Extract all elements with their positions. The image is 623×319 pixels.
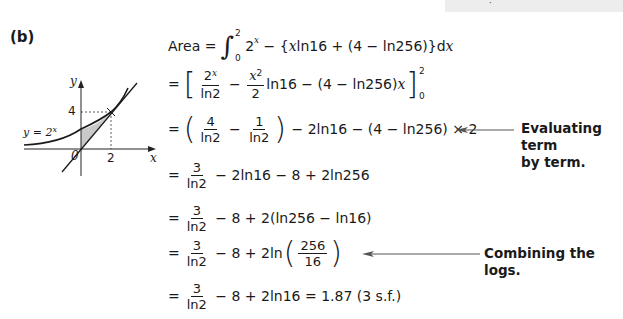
curve-label: y = 2x — [23, 126, 57, 139]
y-axis-label: y — [70, 74, 77, 88]
fraction: 3ln2 — [185, 238, 209, 269]
fraction: 1ln2 — [247, 114, 271, 145]
fraction: 2xln2 — [198, 68, 222, 101]
left-arrow-icon — [362, 249, 480, 259]
graph: y 4 0 2 x y = 2x — [0, 60, 170, 184]
equation-line-7: = 3ln2 − 8 + 2ln16 = 1.87 (3 s.f.) — [168, 276, 401, 316]
equation-line-5: = 3ln2 − 8 + 2(ln256 − ln16) — [168, 198, 372, 238]
equation-line-3: = ( 4ln2 − 1ln2 ) − 2ln16 − (4 − ln256) … — [168, 109, 477, 149]
origin-label: 0 — [71, 149, 79, 163]
part-label: (b) — [10, 28, 34, 46]
graph-svg — [0, 60, 170, 180]
integral-sign: ∫ — [220, 32, 234, 60]
fraction: 3ln2 — [185, 281, 209, 312]
cutoff-mark: · — [489, 0, 492, 8]
equation-line-2: = [ 2xln2 − x22 ln16 − (4 − ln256)x ] 20 — [168, 64, 425, 104]
fraction: x22 — [247, 68, 264, 101]
y-axis-arrow-icon — [78, 80, 84, 88]
left-arrow-icon — [456, 125, 514, 135]
annotation-evaluating: Evaluating term by term. — [521, 120, 623, 171]
top-cutoff-box: · — [445, 0, 623, 12]
annotation-combining-logs: Combining the logs. — [484, 245, 623, 279]
fraction: 4ln2 — [198, 114, 222, 145]
fraction: 3ln2 — [185, 160, 209, 191]
equation-line-6: = 3ln2 − 8 + 2ln ( 25616 ) — [168, 233, 343, 273]
x-axis-label: x — [150, 151, 157, 165]
fraction: 3ln2 — [185, 203, 209, 234]
x-tick-label: 2 — [107, 151, 115, 165]
fraction: 25616 — [298, 238, 327, 269]
equation-line-1: Area = ∫ 20 2x − {xln16 + (4 − ln256)}dx — [168, 26, 453, 66]
equation-line-4: = 3ln2 − 2ln16 − 8 + 2ln256 — [168, 155, 370, 195]
y-tick-label: 4 — [68, 104, 76, 118]
